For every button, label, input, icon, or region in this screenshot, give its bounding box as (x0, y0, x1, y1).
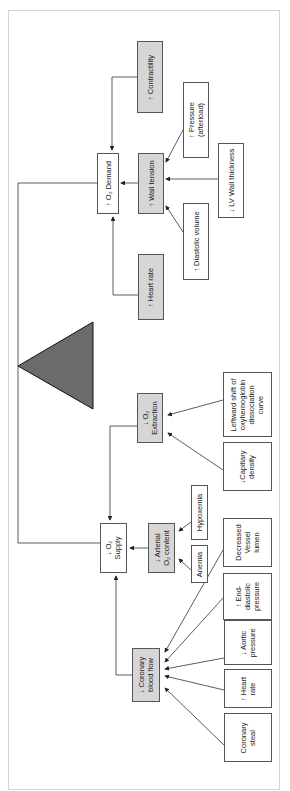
coronary-blood-flow-box: ↓ Coronaryblood flow (132, 648, 160, 702)
end-diastolic-pressure-box: ↑ End-diastolicpressure (223, 573, 272, 620)
leftward-shift-box: Leftward shift ofoxyhemoglobindissociati… (223, 372, 272, 437)
heart-rate-supply-box: ↑ Heartrate (224, 669, 272, 708)
o2-supply-box: ↓ O₂Supply (100, 523, 127, 573)
lv-wall-thickness-box: ↓ LV Wall thickness (218, 143, 244, 218)
o2-demand-box: ↑ O₂ Demand (97, 153, 119, 214)
capillary-density-box: ↓Capillarydensity (223, 442, 272, 491)
anemia-box: Anemia (191, 545, 208, 583)
arterial-o2-content-box: ↓ ArterialO₂ content (148, 523, 175, 573)
o2-extraction-box: ↓ O₂Extraction (137, 393, 163, 443)
decreased-vessel-lumen-box: DecreasedVessellumen (223, 518, 272, 567)
diastolic-volume-box: ↑ Diastolic volume (183, 203, 209, 280)
contractility-box: ↑ Contractility (137, 41, 163, 113)
hypoxemia-box: Hypoxemia (191, 485, 208, 540)
coronary-steal-box: Coronarysteal (224, 713, 272, 762)
heart-rate-demand-box: ↑ Heart rate (138, 254, 164, 320)
wall-tension-box: ↑ Wall tension (138, 153, 164, 214)
fulcrum-triangle (18, 322, 93, 409)
aortic-pressure-box: ↓ Aorticpressure (224, 620, 272, 665)
pressure-afterload-box: ↑ Pressure(afterload) (183, 82, 209, 158)
